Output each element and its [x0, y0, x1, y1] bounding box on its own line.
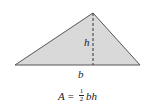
fraction-denominator: 2: [80, 96, 84, 103]
formula-rhs: bh: [86, 90, 97, 102]
formula-fraction: 1 2: [79, 88, 84, 103]
formula-lhs: A: [58, 90, 65, 102]
height-label: h: [84, 37, 90, 48]
triangle-shape: [15, 13, 140, 65]
fraction-numerator: 1: [80, 88, 84, 95]
area-formula: A = 1 2 bh: [58, 88, 97, 103]
formula-equals: =: [68, 90, 74, 102]
base-label: b: [78, 69, 84, 80]
